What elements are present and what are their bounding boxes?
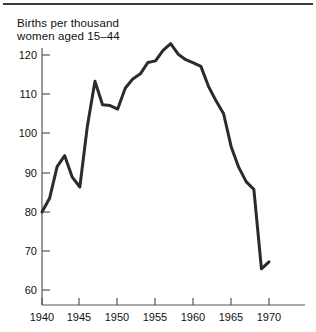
x-tick-label: 1960 — [181, 311, 205, 323]
y-tick-label: 60 — [25, 284, 37, 296]
data-series-line — [42, 44, 269, 269]
y-tick-label: 120 — [19, 49, 37, 61]
x-tick-label: 1945 — [67, 311, 91, 323]
y-axis-ticks — [42, 55, 50, 290]
x-tick-label: 1940 — [30, 311, 54, 323]
figure-container: Births per thousand women aged 15–44 120… — [0, 0, 316, 332]
line-chart-plot: 120 110 100 90 80 70 60 1940 1945 1950 1… — [0, 0, 316, 332]
y-tick-label: 90 — [25, 167, 37, 179]
y-tick-label: 80 — [25, 206, 37, 218]
x-tick-label: 1970 — [257, 311, 281, 323]
x-tick-label: 1965 — [219, 311, 243, 323]
x-tick-label: 1950 — [105, 311, 129, 323]
y-tick-label: 100 — [19, 127, 37, 139]
x-tick-label: 1955 — [143, 311, 167, 323]
x-axis-ticks — [42, 298, 269, 305]
y-tick-label: 70 — [25, 245, 37, 257]
y-tick-label: 110 — [19, 88, 37, 100]
